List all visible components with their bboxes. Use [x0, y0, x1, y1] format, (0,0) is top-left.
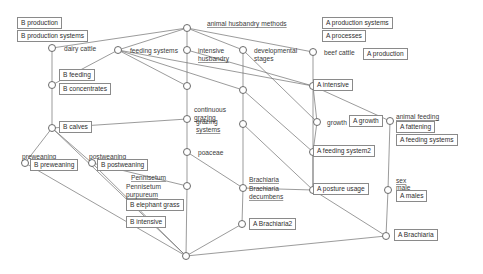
attribute-label-poaceae: poaceae	[198, 149, 223, 156]
lattice-node-bottom[interactable]	[182, 252, 190, 260]
lattice-node-beef_cattle[interactable]	[309, 48, 317, 56]
lattice-node-b_calves[interactable]	[48, 124, 56, 132]
concept-box-b-feeding[interactable]: B feeding	[59, 69, 95, 81]
lattice-node-n_243_90[interactable]	[239, 86, 247, 94]
lattice-node-brachiaria[interactable]	[239, 184, 247, 192]
lattice-node-poaceae[interactable]	[183, 148, 191, 156]
lattice-edge	[386, 190, 388, 236]
lattice-edge	[242, 188, 243, 224]
concept-box-a-males[interactable]: A males	[396, 190, 427, 202]
concept-box-b-production[interactable]: B production	[17, 17, 62, 29]
concept-box-a-fattening[interactable]: A fattening	[396, 121, 435, 133]
concept-box-a-processes[interactable]: A processes	[322, 30, 366, 42]
lattice-edge	[187, 152, 243, 188]
concept-box-b-preweaning[interactable]: B preweaning	[30, 159, 78, 171]
attribute-label-dairy-cattle: dairy cattle	[64, 45, 96, 52]
concept-box-b-concentrates[interactable]: B concentrates	[59, 83, 111, 95]
lattice-node-feeding_systems[interactable]	[114, 46, 122, 54]
lattice-node-n_187_86[interactable]	[183, 82, 191, 90]
concept-box-b-elephant-grass[interactable]: B elephant grass	[126, 199, 184, 211]
attribute-label-beef-cattle: beef cattle	[324, 49, 355, 56]
attribute-label-pennisetum-2: Pennisetum	[126, 183, 161, 190]
lattice-node-top[interactable]	[183, 24, 191, 32]
lattice-node-a_males[interactable]	[384, 186, 392, 194]
concept-box-b-intensive[interactable]: B intensive	[126, 216, 166, 228]
concept-box-b-postweaning[interactable]: B postweaning	[97, 159, 148, 171]
lattice-edge	[52, 128, 186, 256]
attribute-label-brachiaria-2: Brachiaria	[249, 185, 279, 192]
concept-box-a-posture-usage[interactable]: A posture usage	[313, 183, 369, 195]
lattice-node-b_feeding[interactable]	[48, 81, 56, 89]
lattice-diagram-canvas: animal husbandry methodsdairy cattlefeed…	[0, 0, 483, 274]
concept-box-a-feeding-systems[interactable]: A feeding systems	[396, 134, 458, 146]
attribute-label-developmental: developmental	[254, 47, 297, 54]
lattice-node-dairy_cattle[interactable]	[48, 44, 56, 52]
lattice-node-a_fattening[interactable]	[386, 117, 394, 125]
lattice-edge	[313, 190, 386, 236]
attribute-label-purpureum: purpureum	[126, 191, 158, 198]
attribute-label-husbandry: husbandry	[198, 55, 229, 62]
lattice-edge	[118, 50, 187, 86]
lattice-edge	[186, 186, 187, 256]
attribute-label-decumbens: decumbens	[249, 193, 283, 200]
lattice-edge	[313, 86, 317, 122]
concept-box-b-calves[interactable]: B calves	[59, 121, 92, 133]
concept-box-a-feeding-system2[interactable]: A feeding system2	[313, 145, 375, 157]
concept-box-a-brachiaria[interactable]: A Brachiaria	[394, 229, 438, 241]
attribute-label-pennisetum-1: Pennisetum	[131, 174, 166, 181]
concept-box-a-production[interactable]: A production	[363, 48, 408, 60]
lattice-edge	[388, 121, 390, 190]
lattice-node-a_brachiaria[interactable]	[382, 232, 390, 240]
lattice-node-intensive_husb[interactable]	[183, 46, 191, 54]
concept-box-a-growth[interactable]: A growth	[349, 115, 383, 127]
attribute-label-brachiaria-1: Brachiaria	[249, 176, 279, 183]
lattice-node-pennisetum[interactable]	[183, 182, 191, 190]
attribute-label-stages: stages	[254, 55, 274, 62]
lattice-edge	[243, 90, 313, 152]
attribute-label-feeding-systems: feeding systems	[130, 47, 178, 54]
concept-box-b-production-systems[interactable]: B production systems	[17, 30, 88, 42]
lattice-node-a_brachiaria2[interactable]	[238, 220, 246, 228]
attribute-label-continuous: continuous	[194, 106, 226, 113]
attribute-label-intensive: intensive	[198, 47, 224, 54]
attribute-label-grazing-2: grazing	[196, 118, 218, 125]
attribute-label-grazing-systems: systems	[196, 126, 220, 133]
concept-box-a-brachiaria2[interactable]: A Brachiaria2	[249, 218, 296, 230]
lattice-node-grazing_systems[interactable]	[183, 115, 191, 123]
lattice-node-n_243_124[interactable]	[239, 120, 247, 128]
attribute-label-growth: growth	[327, 119, 347, 126]
lattice-node-growth[interactable]	[313, 118, 321, 126]
concept-box-a-intensive[interactable]: A intensive	[313, 79, 353, 91]
concept-box-a-production-systems[interactable]: A production systems	[322, 17, 393, 29]
attribute-label-animal-husbandry-methods: animal husbandry methods	[207, 20, 287, 27]
lattice-node-dev_stages[interactable]	[239, 46, 247, 54]
